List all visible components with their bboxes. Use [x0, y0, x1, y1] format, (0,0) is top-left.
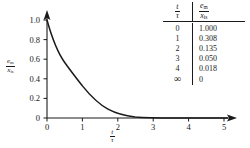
cell-t-over-tau: 0 [163, 23, 192, 33]
x-axis-title-denominator: τ [110, 136, 115, 144]
figure-root: 1.0 0.8 0.6 0.4 0.2 0 0 1 2 3 4 5 em xis… [0, 0, 250, 148]
x-tick-label-5: 5 [217, 122, 231, 132]
y-tick-label-0.2: 0.2 [18, 93, 40, 103]
table-row: 1 0.308 [163, 33, 245, 43]
table-row: 2 0.135 [163, 43, 245, 53]
table-row: ∞ 0 [163, 73, 245, 85]
cell-ratio: 0.018 [192, 63, 245, 73]
table-head: t τ em xis [163, 2, 245, 23]
cell-ratio: 1.000 [192, 23, 245, 33]
x-axis-title-numerator: t [110, 129, 115, 136]
y-axis-title-denominator: xis [6, 66, 15, 75]
cell-t-over-tau: 1 [163, 33, 192, 43]
cell-t-over-tau: 3 [163, 53, 192, 63]
table-row: 4 0.018 [163, 63, 245, 73]
x-tick-label-1: 1 [75, 122, 89, 132]
table-header-row: t τ em xis [163, 2, 245, 22]
x-axis-title: t τ [110, 129, 115, 144]
y-tick-label-1.0: 1.0 [18, 15, 40, 25]
y-axis-title-numerator: em [6, 58, 15, 66]
x-tick-label-0: 0 [40, 122, 54, 132]
values-table: t τ em xis 0 [163, 2, 245, 85]
y-tick-label-0.4: 0.4 [18, 74, 40, 84]
y-tick-label-0: 0 [18, 113, 40, 123]
y-tick-label-0.6: 0.6 [18, 54, 40, 64]
cell-ratio: 0.050 [192, 53, 245, 63]
y-axis-title-fraction: em xis [6, 58, 15, 75]
cell-ratio: 0 [192, 73, 245, 85]
x-tick-label-4: 4 [182, 122, 196, 132]
table-header-ratio: em xis [192, 2, 245, 22]
data-table: t τ em xis 0 [163, 2, 245, 85]
y-axis-title: em xis [6, 58, 15, 75]
cell-t-over-tau: ∞ [163, 73, 192, 85]
cell-t-over-tau: 4 [163, 63, 192, 73]
cell-ratio: 0.308 [192, 33, 245, 43]
cell-ratio: 0.135 [192, 43, 245, 53]
x-axis-title-fraction: t τ [110, 129, 115, 144]
table-row: 0 1.000 [163, 23, 245, 33]
x-tick-label-3: 3 [146, 122, 160, 132]
y-tick-label-0.8: 0.8 [18, 35, 40, 45]
table-body: 0 1.000 1 0.308 2 0.135 3 0.050 4 0.01 [163, 23, 245, 85]
table-header-t-over-tau: t τ [163, 2, 192, 22]
cell-t-over-tau: 2 [163, 43, 192, 53]
table-row: 3 0.050 [163, 53, 245, 63]
